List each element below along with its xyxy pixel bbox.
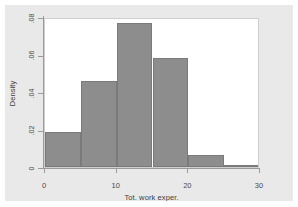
y-tick-label-text: .06 bbox=[28, 51, 35, 61]
histogram-figure: Density .08.06.04.020 0102030 Tot. work … bbox=[0, 0, 298, 207]
figure-margin-left bbox=[0, 0, 5, 207]
y-tick-label: 0 bbox=[26, 163, 38, 173]
y-tick-label: .02 bbox=[26, 126, 38, 136]
histogram-bar bbox=[81, 81, 117, 167]
figure-margin-right bbox=[293, 0, 298, 207]
x-tick-mark bbox=[187, 169, 188, 173]
histogram-bar bbox=[224, 165, 259, 167]
y-axis-title: Density bbox=[6, 0, 20, 186]
x-tick-mark bbox=[116, 169, 117, 173]
y-tick-label: .06 bbox=[26, 51, 38, 61]
histogram-bar bbox=[153, 58, 189, 167]
histogram-bar bbox=[117, 23, 153, 167]
y-tick-label: .08 bbox=[26, 13, 38, 23]
y-tick-label: .04 bbox=[26, 88, 38, 98]
histogram-bar bbox=[188, 155, 224, 167]
y-tick-label-text: .04 bbox=[28, 88, 35, 98]
histogram-bar bbox=[45, 132, 81, 167]
y-tick-label-text: 0 bbox=[29, 166, 36, 170]
x-axis-line bbox=[43, 168, 260, 169]
x-axis-title-label: Tot. work exper. bbox=[124, 193, 178, 202]
x-axis-title: Tot. work exper. bbox=[44, 186, 259, 204]
y-axis-title-label: Density bbox=[9, 80, 18, 106]
plot-region bbox=[44, 18, 259, 168]
y-tick-label-text: .08 bbox=[28, 13, 35, 23]
x-tick-mark bbox=[259, 169, 260, 173]
x-tick-mark bbox=[44, 169, 45, 173]
y-tick-label-text: .02 bbox=[28, 126, 35, 136]
